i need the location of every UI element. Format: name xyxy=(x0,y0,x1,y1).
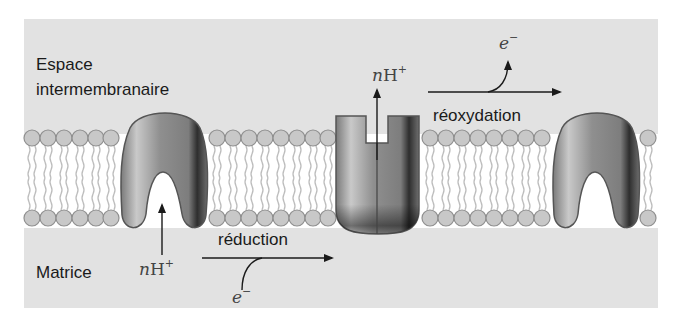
region-label-ims-line2: intermembranaire xyxy=(36,79,169,100)
proton-label-matrix: nH+ xyxy=(139,259,174,279)
region-label-matrix: Matrice xyxy=(36,262,92,283)
electron-label-in: e− xyxy=(232,287,251,307)
process-label-reoxidation: réoxydation xyxy=(433,105,521,126)
diagram-canvas xyxy=(0,0,677,324)
electron-label-out: e− xyxy=(499,33,518,53)
proton-pump-diagram: Espace intermembranaire Matrice réductio… xyxy=(0,0,677,324)
region-label-ims-line1: Espace xyxy=(36,54,93,75)
proton-label-ims: nH+ xyxy=(372,65,407,85)
process-label-reduction: réduction xyxy=(218,229,288,250)
